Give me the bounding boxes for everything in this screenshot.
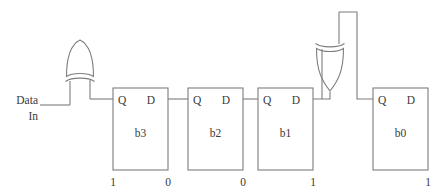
- flipflop-b0: Q D b0: [373, 88, 428, 170]
- flipflop-b3-q-label: Q: [118, 94, 127, 106]
- flipflop-b3-d-label: D: [147, 94, 155, 106]
- xor-gate-right-body: [317, 49, 344, 92]
- bit-label-b3-right: 0: [165, 176, 171, 188]
- flipflop-b2: Q D b2: [188, 88, 243, 170]
- circuit-svg: Q D b3 Q D b2 Q D b1: [0, 0, 448, 196]
- flipflop-b3-name: b3: [135, 127, 147, 139]
- lfsr-diagram: Q D b3 Q D b2 Q D b1: [0, 0, 448, 196]
- flipflop-b3: Q D b3: [113, 88, 168, 170]
- flipflop-b1: Q D b1: [258, 88, 313, 170]
- bit-label-b1-right: 1: [310, 176, 316, 188]
- flipflop-b0-name: b0: [395, 127, 407, 139]
- flipflop-b0-d-label: D: [407, 94, 415, 106]
- bit-label-b2-right: 0: [240, 176, 246, 188]
- xor-gate-left: [66, 40, 95, 105]
- flipflop-b1-name: b1: [280, 127, 292, 139]
- data-in-label-line1: Data: [16, 94, 38, 106]
- flipflop-b1-q-label: Q: [263, 94, 272, 106]
- flipflop-b1-d-label: D: [292, 94, 300, 106]
- xor-gate-right-xor-arc: [316, 44, 345, 47]
- xor-gate-left-body: [67, 40, 94, 77]
- bit-label-b0-right: 1: [425, 176, 431, 188]
- flipflop-b2-d-label: D: [222, 94, 230, 106]
- bit-label-b3-left: 1: [110, 176, 116, 188]
- flipflop-b2-name: b2: [210, 127, 222, 139]
- data-in-label-line2: In: [28, 110, 38, 122]
- flipflop-b0-q-label: Q: [378, 94, 387, 106]
- xor-gate-right: [316, 12, 345, 91]
- wire-b0q-to-xor-right-input-b: [339, 12, 373, 99]
- flipflop-b2-q-label: Q: [193, 94, 202, 106]
